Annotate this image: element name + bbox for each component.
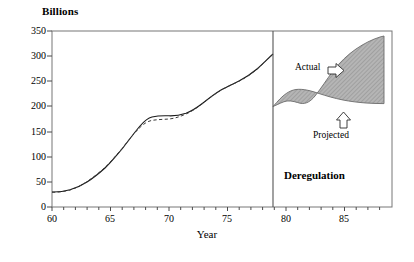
series-dashed-line <box>52 54 273 192</box>
y-tick-label-50: 50 <box>20 177 46 187</box>
x-tick-label-60: 60 <box>40 214 64 224</box>
y-tick-label-200: 200 <box>20 101 46 111</box>
y-tick-label-300: 300 <box>20 51 46 61</box>
annotation-deregulation: Deregulation <box>284 170 345 180</box>
x-tick-label-65: 65 <box>98 214 122 224</box>
series-solid-line <box>52 54 273 192</box>
projected-arrow-icon <box>337 112 351 128</box>
annotation-actual: Actual <box>295 62 320 72</box>
x-tick-label-85: 85 <box>332 214 356 224</box>
x-tick-label-75: 75 <box>215 214 239 224</box>
y-tick-label-250: 250 <box>20 76 46 86</box>
chart-figure: Billions <box>0 0 414 262</box>
y-tick-label-0: 0 <box>20 202 46 212</box>
x-axis-minor-ticks <box>52 207 380 211</box>
x-axis-title: Year <box>0 228 414 240</box>
y-tick-label-150: 150 <box>20 127 46 137</box>
y-tick-label-350: 350 <box>20 26 46 36</box>
y-tick-label-100: 100 <box>20 152 46 162</box>
y-axis-ticks <box>47 31 52 207</box>
x-tick-label-70: 70 <box>157 214 181 224</box>
annotation-projected: Projected <box>313 130 349 140</box>
x-tick-label-80: 80 <box>274 214 298 224</box>
